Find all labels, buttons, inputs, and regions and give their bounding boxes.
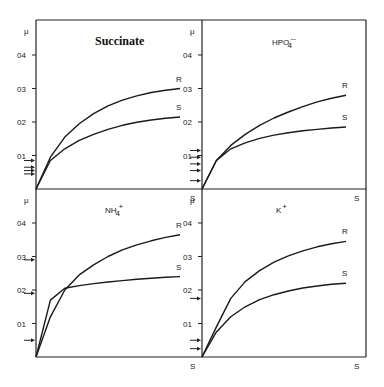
curve-r: [202, 95, 346, 189]
curve-label-r: R: [176, 75, 182, 84]
y-tick-label: 01: [183, 320, 192, 329]
y-tick-label: 04: [17, 51, 26, 60]
arrow-head-icon: [31, 291, 35, 295]
curve-s: [36, 117, 180, 189]
arrow-head-icon: [31, 172, 35, 176]
y-tick-label: 03: [183, 85, 192, 94]
panel-4: μS01020304RSK+: [183, 196, 359, 371]
curve-label-s: S: [176, 263, 181, 272]
curve-label-s: S: [176, 103, 181, 112]
panel-title-superscript: +: [118, 202, 123, 211]
arrow-head-icon: [31, 258, 35, 262]
x-axis-label: S: [190, 362, 195, 371]
arrow-head-icon: [31, 338, 35, 342]
y-tick-label: 04: [17, 219, 26, 228]
curve-label-r: R: [342, 81, 348, 90]
y-tick-label: 02: [17, 118, 26, 127]
y-axis-label: μ: [24, 196, 29, 205]
panel-title: Succinate: [95, 34, 145, 48]
y-tick-label: 02: [183, 286, 192, 295]
arrow-head-icon: [197, 148, 201, 152]
y-tick-label: 02: [183, 118, 192, 127]
curve-label-r: R: [176, 221, 182, 230]
y-tick-label: 01: [183, 152, 192, 161]
arrow-head-icon: [31, 169, 35, 173]
y-tick-label: 04: [183, 51, 192, 60]
x-axis-label: S: [354, 194, 359, 203]
curve-s: [36, 277, 180, 357]
figure-2x2-growth-curves: μS01020304RSSuccinateμS01020304RSHPO4--μ…: [0, 0, 384, 387]
y-tick-label: 01: [17, 152, 26, 161]
y-tick-label: 04: [183, 219, 192, 228]
panel-title: K: [276, 206, 282, 215]
curve-s: [202, 127, 346, 189]
arrow-head-icon: [197, 169, 201, 173]
curve-label-s: S: [342, 269, 347, 278]
curve-r: [202, 241, 346, 357]
y-tick-label: 01: [17, 320, 26, 329]
y-tick-label: 03: [17, 85, 26, 94]
arrow-head-icon: [197, 338, 201, 342]
panel-2: μS01020304RSHPO4--: [183, 27, 359, 203]
panel-1: μS01020304RSSuccinate: [17, 27, 195, 203]
arrow-head-icon: [197, 296, 201, 300]
arrow-head-icon: [197, 347, 201, 351]
curve-label-r: R: [342, 227, 348, 236]
curve-r: [36, 235, 180, 357]
x-axis-label: S: [354, 362, 359, 371]
panel-3: μS01020304RSNH4+: [17, 196, 195, 371]
curve-s: [202, 283, 346, 357]
panel-title-superscript: +: [282, 202, 287, 211]
y-tick-label: 03: [183, 253, 192, 262]
y-axis-label: μ: [190, 196, 195, 205]
curve-r: [36, 89, 180, 190]
arrow-head-icon: [197, 179, 201, 183]
y-axis-label: μ: [190, 27, 195, 36]
arrow-head-icon: [31, 165, 35, 169]
curve-label-s: S: [342, 113, 347, 122]
y-axis-label: μ: [24, 27, 29, 36]
arrow-head-icon: [197, 162, 201, 166]
arrow-head-icon: [31, 159, 35, 163]
panel-title-superscript: --: [291, 34, 297, 43]
